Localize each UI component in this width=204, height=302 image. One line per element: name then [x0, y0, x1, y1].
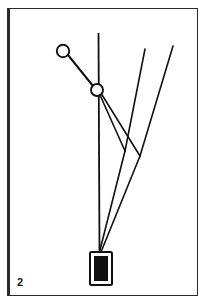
lower-pivot-circle-icon: [91, 84, 103, 96]
weight-body: [94, 256, 108, 281]
figure-number-label: 2: [17, 275, 23, 289]
figure-canvas: [0, 0, 204, 302]
weight-assembly: [90, 252, 112, 285]
upper-pivot-circle-icon: [57, 45, 69, 57]
plumb-line: [99, 33, 100, 252]
figure-panel: 2: [0, 0, 204, 302]
